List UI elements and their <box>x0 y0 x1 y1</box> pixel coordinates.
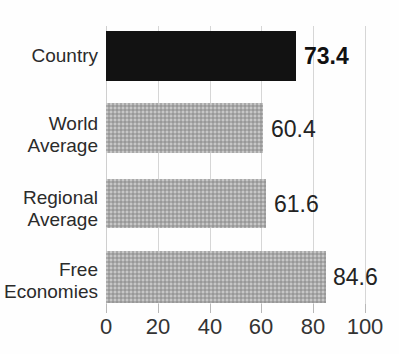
category-label-regional-average: Regional Average <box>23 187 98 231</box>
bar-regional-average-fill <box>106 179 266 228</box>
bar-world-average-fill <box>106 103 263 153</box>
value-label-free-economies: 84.6 <box>333 266 378 289</box>
bar-chart: Country 73.4 World Average 60.4 Regional… <box>0 0 399 354</box>
tick-label-80: 80 <box>283 314 343 340</box>
tick-mark-100 <box>365 304 366 313</box>
tick-mark-40 <box>210 304 211 313</box>
tick-mark-20 <box>158 304 159 313</box>
category-label-free-economies: Free Economies <box>4 259 98 303</box>
bar-world-average <box>106 103 263 153</box>
value-label-regional-average: 61.6 <box>274 193 319 216</box>
tick-label-100: 100 <box>335 314 395 340</box>
bar-country <box>106 31 296 81</box>
bar-country-fill <box>106 31 296 81</box>
bar-regional-average <box>106 179 266 228</box>
value-label-world-average: 60.4 <box>271 118 316 141</box>
value-label-country: 73.4 <box>304 45 349 68</box>
bar-free-economies-fill <box>106 251 326 303</box>
tick-mark-60 <box>261 304 262 313</box>
tick-mark-80 <box>313 304 314 313</box>
gridline-100 <box>365 26 366 304</box>
category-label-country: Country <box>31 45 98 67</box>
bar-free-economies <box>106 251 326 303</box>
category-label-world-average: World Average <box>28 113 98 157</box>
tick-label-60: 60 <box>231 314 291 340</box>
tick-label-20: 20 <box>128 314 188 340</box>
tick-label-0: 0 <box>76 314 136 340</box>
plot-area: Country 73.4 World Average 60.4 Regional… <box>0 0 399 354</box>
tick-mark-0 <box>106 304 107 313</box>
